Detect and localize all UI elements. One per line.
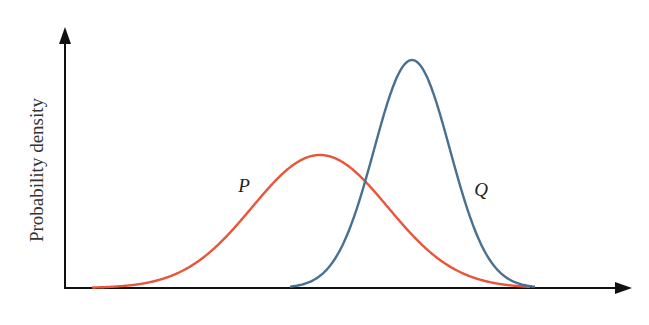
y-axis-arrow-icon — [59, 27, 71, 44]
series-q-label: Q — [474, 179, 488, 201]
x-axis-arrow-icon — [615, 282, 632, 294]
chart-canvas — [0, 0, 649, 325]
series-p-label: P — [238, 175, 250, 197]
series-q-curve — [290, 60, 535, 287]
series-p-curve — [92, 155, 530, 288]
y-axis-label: Probability density — [26, 98, 48, 242]
axes — [59, 27, 632, 294]
